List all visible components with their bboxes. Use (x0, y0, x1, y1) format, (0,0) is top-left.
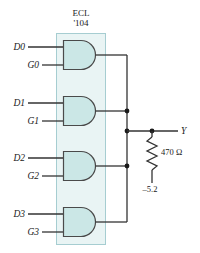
ecl-wired-or-schematic: ECL '104 D0 G0 D1 G1 (0, 0, 200, 253)
input-g3-label: G3 (27, 227, 39, 237)
and-gate-3 (28, 208, 127, 237)
and-gate-3-body (64, 208, 96, 237)
resistor-zigzag (147, 137, 157, 170)
and-gate-2 (28, 152, 127, 181)
schematic-canvas: ECL '104 D0 G0 D1 G1 (0, 0, 200, 253)
input-d0-label: D0 (12, 42, 25, 52)
and-gate-1 (28, 97, 127, 126)
input-d2-label: D2 (12, 153, 25, 163)
and-gate-2-body (64, 152, 96, 181)
pulldown-resistor (147, 131, 157, 183)
resistor-value-label: 470 Ω (161, 147, 182, 157)
input-g0-label: G0 (27, 60, 39, 70)
package-title-line1: ECL (73, 8, 90, 18)
and-gate-0-body (64, 41, 96, 70)
output-y-label: Y (181, 126, 188, 136)
input-d1-label: D1 (12, 98, 25, 108)
supply-rail-label: –5.2 (142, 184, 158, 194)
package-title-line2: '104 (73, 18, 89, 28)
input-d3-label: D3 (12, 209, 25, 219)
and-gate-1-body (64, 97, 96, 126)
junction-dot-gate2 (125, 164, 130, 169)
input-g2-label: G2 (27, 171, 39, 181)
junction-dot-gate1 (125, 109, 130, 114)
input-g1-label: G1 (27, 116, 39, 126)
and-gate-0 (28, 41, 127, 70)
